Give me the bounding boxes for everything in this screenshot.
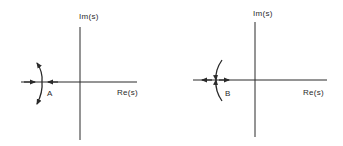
imaginary-axis-label: Im(s) [253,9,273,18]
point-label-a: A [47,89,53,98]
s-plane-a-graphic [0,0,171,146]
locus-arc-lower [37,82,42,104]
locus-arc-upper [216,60,222,80]
real-axis-label: Re(s) [117,88,138,97]
locus-arc-lower [216,80,222,101]
s-plane-diagram-a: Im(s) Re(s) A [0,0,171,146]
s-plane-b-graphic [172,0,343,146]
point-label-b: B [225,89,231,98]
s-plane-diagram-b: Im(s) Re(s) B [172,0,343,146]
imaginary-axis-label: Im(s) [79,12,99,21]
locus-arc-upper [37,63,42,82]
real-axis-label: Re(s) [303,88,324,97]
